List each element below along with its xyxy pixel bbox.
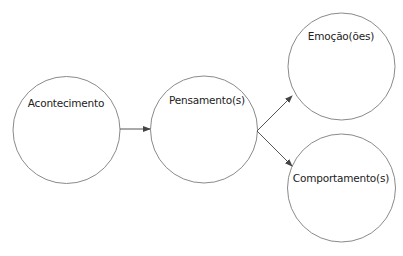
node-comportamento-circle bbox=[288, 134, 396, 242]
node-acontecimento-label: Acontecimento bbox=[28, 97, 104, 109]
node-comportamento-label: Comportamento(s) bbox=[293, 172, 389, 184]
node-acontecimento-circle bbox=[13, 77, 120, 184]
edge-pensamento-emocao-arrow bbox=[257, 96, 292, 131]
edge-pensamento-comportamento-arrow bbox=[257, 131, 292, 166]
node-emocao-label: Emoção(ões) bbox=[308, 30, 374, 42]
node-pensamento-circle bbox=[151, 76, 258, 183]
node-pensamento-label: Pensamento(s) bbox=[169, 94, 245, 106]
